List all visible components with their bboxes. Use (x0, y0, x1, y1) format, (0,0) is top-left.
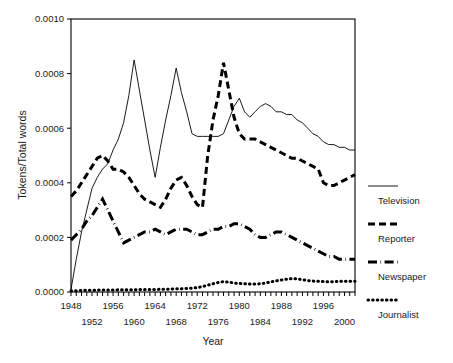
y-tick-label: 0.0006 (35, 123, 64, 134)
y-tick-label: 0.0010 (35, 13, 64, 24)
legend-label-reporter: Reporter (378, 233, 415, 244)
y-tick-label: 0.0000 (35, 286, 64, 297)
y-tick-label: 0.0002 (35, 232, 64, 243)
x-tick-label-upper: 1964 (145, 300, 166, 311)
legend-label-television: Television (378, 195, 420, 206)
legend-label-newspaper: Newspaper (378, 271, 426, 282)
x-tick-label-upper: 1972 (187, 300, 208, 311)
x-tick-label-lower: 1960 (124, 316, 145, 327)
x-tick-label-upper: 1980 (229, 300, 250, 311)
y-tick-label: 0.0008 (35, 68, 64, 79)
x-tick-label-lower: 1984 (250, 316, 271, 327)
x-tick-label-upper: 1996 (313, 300, 334, 311)
x-tick-label-upper: 1956 (103, 300, 124, 311)
x-tick-label-lower: 1968 (166, 316, 187, 327)
legend-label-journalist: Journalist (378, 309, 419, 320)
x-tick-label-upper: 1988 (271, 300, 292, 311)
chart-container: 0.00100.00080.00060.00040.00020.0000 194… (0, 0, 453, 363)
x-tick-label-lower: 1976 (208, 316, 229, 327)
x-tick-label-lower: 1952 (81, 316, 102, 327)
x-axis-title: Year (202, 335, 224, 347)
x-tick-label-lower: 1992 (292, 316, 313, 327)
y-tick-label: 0.0004 (35, 177, 64, 188)
x-tick-label-upper: 1948 (60, 300, 81, 311)
tokens-per-total-words-line-chart: 0.00100.00080.00060.00040.00020.0000 194… (0, 0, 453, 363)
x-tick-label-lower: 2000 (334, 316, 355, 327)
y-axis-title: Tokens/Total words (16, 110, 28, 199)
